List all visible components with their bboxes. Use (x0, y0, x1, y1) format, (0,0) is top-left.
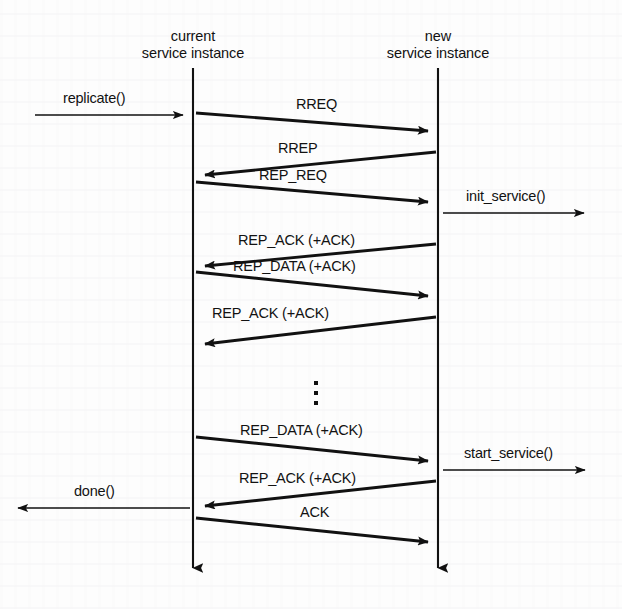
lifeline-head-current-line1: current (123, 28, 263, 45)
label-done: done() (74, 483, 115, 500)
lifeline-head-new: new service instance (368, 28, 508, 62)
label-rep-ack-1: REP_ACK (+ACK) (238, 232, 355, 249)
label-rreq: RREQ (296, 96, 337, 113)
arrow-ack-final (196, 518, 428, 542)
label-rep-data-1: REP_DATA (+ACK) (233, 258, 356, 275)
vertical-ellipsis-icon (314, 381, 318, 405)
label-rep-data-2: REP_DATA (+ACK) (240, 422, 363, 439)
arrow-rep-req (196, 182, 428, 202)
label-rep-ack-2: REP_ACK (+ACK) (212, 305, 329, 322)
label-ack-final: ACK (300, 504, 329, 521)
arrow-rep-data-2 (196, 437, 428, 461)
lifeline-head-new-line2: service instance (368, 45, 508, 62)
arrow-rreq (196, 113, 428, 131)
label-rrep: RREP (278, 140, 318, 157)
label-rep-ack-3: REP_ACK (+ACK) (239, 470, 356, 487)
label-rep-req: REP_REQ (259, 167, 327, 184)
label-replicate: replicate() (63, 90, 125, 107)
label-start-service: start_service() (464, 445, 553, 462)
arrow-rep-data-1 (196, 272, 428, 296)
lifeline-head-new-line1: new (368, 28, 508, 45)
lifeline-head-current-line2: service instance (123, 45, 263, 62)
lifeline-head-current: current service instance (123, 28, 263, 62)
sequence-diagram-canvas: current service instance new service ins… (0, 0, 622, 609)
label-init-service: init_service() (466, 188, 545, 205)
